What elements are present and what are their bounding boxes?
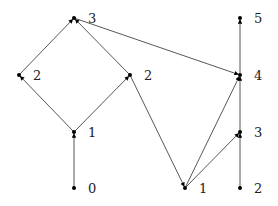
label-L2a: 2 <box>33 69 41 82</box>
label-R1: 1 <box>199 182 207 195</box>
node-L1 <box>72 130 76 134</box>
node-R2 <box>238 186 242 190</box>
node-L2b <box>128 73 132 77</box>
edge-L1-L2a <box>20 76 74 132</box>
edge-R1-R4 <box>185 77 239 188</box>
label-L0: 0 <box>88 182 96 195</box>
label-R5: 5 <box>254 12 262 25</box>
edge-L2a-L3 <box>19 19 73 75</box>
edge-L1-L2b <box>74 76 129 132</box>
label-R4: 4 <box>254 69 262 82</box>
label-L2b: 2 <box>144 69 152 82</box>
edges-group <box>19 18 240 188</box>
label-L1: 1 <box>88 126 96 139</box>
edge-L3-R4 <box>74 18 238 74</box>
label-R3: 3 <box>254 126 262 139</box>
node-R1 <box>183 186 187 190</box>
node-L2a <box>17 73 21 77</box>
node-L0 <box>72 186 76 190</box>
node-R5 <box>238 16 242 20</box>
node-R4 <box>238 73 242 77</box>
label-R2: 2 <box>254 182 262 195</box>
label-L3: 3 <box>88 12 96 25</box>
node-L3 <box>72 16 76 20</box>
edge-L2b-R1 <box>130 75 184 186</box>
hasse-diagram <box>0 0 278 206</box>
edge-R1-R3 <box>185 133 239 188</box>
node-R3 <box>238 130 242 134</box>
